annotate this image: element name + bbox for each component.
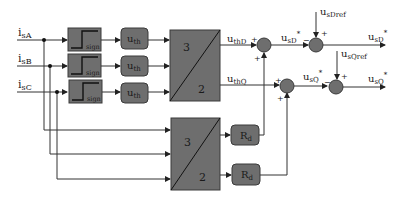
svg-text:−: − <box>324 78 331 87</box>
label-uthQ: uthQ <box>227 73 247 86</box>
svg-text:2: 2 <box>198 83 205 96</box>
sign-block-c: sign <box>69 80 102 103</box>
transform-block-upper: 3 2 <box>170 30 220 101</box>
label-usD-star-mid: usD* <box>281 30 301 45</box>
svg-text:+: + <box>251 35 258 44</box>
input-label-isC: isC <box>18 78 32 92</box>
label-usQ-star-out: usQ* <box>368 71 388 86</box>
svg-text:sign: sign <box>87 95 101 103</box>
svg-text:+: + <box>275 76 282 85</box>
summer-q-inner <box>280 79 294 93</box>
label-uthD: uthD <box>227 33 247 46</box>
resistance-block-q: Rd <box>232 164 260 185</box>
block-diagram: isA isB isC sign sign sign uth uth uth <box>0 0 401 199</box>
svg-text:−: − <box>303 36 310 45</box>
threshold-block-b: uth <box>121 56 148 76</box>
threshold-block-c: uth <box>121 83 148 103</box>
input-label-isA: isA <box>18 26 32 40</box>
label-usDref: usDref <box>320 6 347 19</box>
summer-q-outer <box>329 80 343 94</box>
rd-feedback-lines <box>259 53 287 175</box>
sign-block-a: sign <box>68 28 101 51</box>
svg-text:2: 2 <box>199 171 206 184</box>
sign-to-uth-lines <box>101 40 120 92</box>
svg-text:+: + <box>341 72 348 81</box>
svg-text:sign: sign <box>86 43 100 51</box>
svg-text:+: + <box>254 54 261 63</box>
transform-block-lower: 3 2 <box>171 118 220 190</box>
threshold-block-a: uth <box>121 28 148 49</box>
input-label-isB: isB <box>18 52 32 66</box>
label-usQ-star-mid: usQ* <box>303 69 323 84</box>
transform-to-rd-lines <box>220 135 231 175</box>
svg-text:+: + <box>321 29 328 38</box>
summer-d-outer <box>309 38 323 52</box>
svg-text:3: 3 <box>183 41 190 54</box>
sign-block-b: sign <box>68 54 101 77</box>
label-usD-star-out: usD* <box>368 29 388 44</box>
summer-d-inner <box>257 38 271 52</box>
label-usQref: usQref <box>341 48 368 61</box>
svg-text:+: + <box>277 94 284 103</box>
resistance-block-d: Rd <box>231 125 259 145</box>
uth-to-transform-lines <box>148 40 169 92</box>
svg-text:3: 3 <box>184 136 191 149</box>
svg-text:sign: sign <box>86 69 100 77</box>
